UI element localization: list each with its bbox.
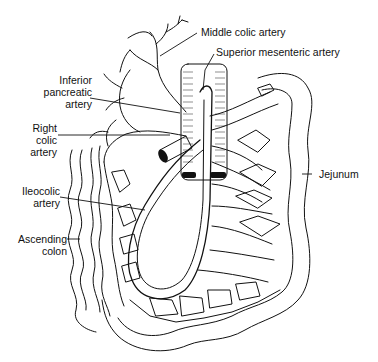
jejunal-arcades	[130, 84, 280, 322]
label-inferior-pancreatic-artery: Inferior pancreatic artery	[30, 74, 92, 110]
label-jejunum: Jejunum	[319, 168, 359, 180]
superior-mesenteric-artery	[128, 86, 212, 299]
label-line-2: pancreatic	[30, 86, 92, 98]
label-line-2: artery	[4, 197, 60, 209]
middle-colic-artery	[104, 16, 188, 132]
right-colic-arcades	[90, 120, 186, 306]
label-line-1: Right	[10, 122, 57, 134]
label-line-1: Ascending	[2, 233, 67, 245]
label-ascending-colon: Ascending colon	[2, 233, 67, 257]
label-right-colic-artery: Right colic artery	[10, 122, 57, 158]
label-line-2: colon	[2, 245, 67, 257]
label-middle-colic-artery: Middle colic artery	[201, 26, 286, 38]
label-line-1: Inferior	[30, 74, 92, 86]
label-line-2: colic	[10, 134, 57, 146]
label-line-3: artery	[10, 146, 57, 158]
label-superior-mesenteric-artery: Superior mesenteric artery	[216, 46, 340, 58]
label-line-3: artery	[30, 98, 92, 110]
vessel-column	[156, 64, 227, 180]
label-line-1: Ileocolic	[4, 185, 60, 197]
anatomy-diagram: Middle colic artery Superior mesenteric …	[0, 0, 378, 362]
label-ileocolic-artery: Ileocolic artery	[4, 185, 60, 209]
